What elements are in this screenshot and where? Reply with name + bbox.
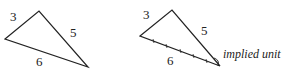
right-side-label-3: 3 bbox=[143, 7, 150, 22]
implied-unit-annotation: implied unit bbox=[223, 47, 281, 61]
left-side-label-5: 5 bbox=[70, 25, 77, 40]
left-triangle: 3 5 6 bbox=[5, 9, 88, 69]
left-side-label-6: 6 bbox=[36, 54, 43, 69]
right-side-label-6: 6 bbox=[167, 53, 174, 68]
right-side-label-5: 5 bbox=[201, 23, 208, 38]
triangles-diagram: 3 5 6 3 5 6 implied unit bbox=[0, 0, 287, 71]
right-triangle: 3 5 6 implied unit bbox=[140, 7, 281, 68]
left-side-label-3: 3 bbox=[10, 9, 17, 24]
right-triangle-shape bbox=[140, 10, 220, 66]
